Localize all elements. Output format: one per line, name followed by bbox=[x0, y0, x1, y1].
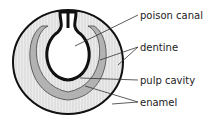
label-pulp-cavity: pulp cavity bbox=[140, 76, 195, 86]
label-poison-canal: poison canal bbox=[140, 11, 203, 21]
label-dentine: dentine bbox=[140, 43, 178, 53]
label-enamel: enamel bbox=[140, 98, 177, 108]
